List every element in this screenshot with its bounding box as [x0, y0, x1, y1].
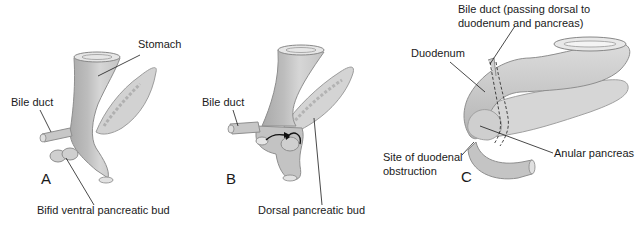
leader-bile-duct-c	[490, 26, 515, 64]
label-dorsal-bud: Dorsal pancreatic bud	[258, 204, 365, 217]
label-stomach: Stomach	[138, 38, 181, 51]
panel-letter-c: C	[461, 168, 472, 185]
diagram-artwork	[0, 0, 638, 229]
label-bile-duct-a: Bile duct	[11, 96, 53, 109]
panel-letter-a: A	[41, 170, 51, 187]
label-bile-duct-c-line1: Bile duct (passing dorsal to	[458, 3, 590, 16]
duodenum-lower-c	[468, 142, 532, 179]
leader-dorsal-bud	[314, 118, 322, 205]
stomach-opening	[74, 52, 120, 62]
leader-bile-duct-a	[40, 110, 51, 132]
label-bile-duct-c-line2: duodenum and pancreas)	[458, 17, 583, 30]
bile-duct-shape-b	[230, 122, 260, 134]
label-site-line2: obstruction	[383, 165, 437, 178]
panel-b-artwork	[228, 45, 354, 205]
label-site-line1: Site of duodenal	[383, 151, 463, 164]
ventral-bud-right	[62, 148, 78, 160]
anular-pancreas-figure: Stomach Bile duct A Bifid ventral pancre…	[0, 0, 638, 229]
label-anular-pancreas: Anular pancreas	[554, 147, 634, 160]
label-duodenum: Duodenum	[411, 47, 465, 60]
bile-duct-shape	[42, 128, 72, 142]
panel-a-artwork	[40, 52, 156, 205]
anular-pancreas-ring	[468, 110, 502, 140]
label-ventral-bud: Bifid ventral pancreatic bud	[37, 204, 170, 217]
panel-letter-b: B	[226, 170, 236, 187]
label-bile-duct-b: Bile duct	[202, 96, 244, 109]
leader-duodenum	[450, 62, 485, 92]
